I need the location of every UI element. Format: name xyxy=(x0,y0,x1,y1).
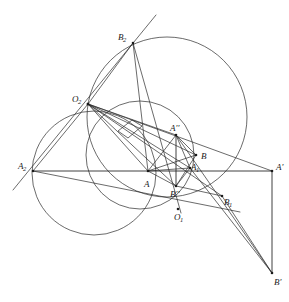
point-label-B: B xyxy=(201,152,207,161)
segment-O2-B xyxy=(88,104,196,155)
figure-canvas xyxy=(0,0,289,302)
segment-line-A2-B2 xyxy=(13,15,156,190)
point-label-O1: O1 xyxy=(174,213,184,222)
point-label-Bpp: B'' xyxy=(170,190,179,199)
point-label-Ap: A' xyxy=(276,163,283,172)
segment-O2-B2 xyxy=(88,43,133,104)
geometry-figure: A2O2B2AA''BA1B''O1B1A'B' xyxy=(0,0,289,302)
segment-O2-A xyxy=(88,104,148,171)
point-label-A: A xyxy=(144,180,150,189)
point-dot-Ap xyxy=(271,170,274,173)
point-dot-A xyxy=(147,170,150,173)
point-label-B2: B2 xyxy=(118,33,127,42)
point-dot-Bpp xyxy=(175,185,178,188)
point-dot-B xyxy=(195,154,198,157)
point-dot-O1 xyxy=(177,208,180,211)
point-dot-App xyxy=(175,134,178,137)
point-label-Bp: B' xyxy=(274,278,281,287)
point-dot-A2 xyxy=(32,170,35,173)
point-dot-O2 xyxy=(87,103,90,106)
segment-A-App xyxy=(148,135,176,171)
point-label-A2: A2 xyxy=(18,162,27,171)
segment-A1-Bp xyxy=(190,168,272,273)
lines-group xyxy=(13,15,272,273)
segment-O2-A2 xyxy=(33,104,88,171)
segment-O2-Bpp xyxy=(88,104,176,186)
point-label-B1: B1 xyxy=(224,198,233,207)
segment-A2-B1 xyxy=(33,171,240,212)
point-dot-Bp xyxy=(271,272,274,275)
point-label-O2: O2 xyxy=(72,95,82,104)
point-dot-B2 xyxy=(132,42,135,45)
point-label-A1: A1 xyxy=(191,163,200,172)
point-label-App: A'' xyxy=(170,124,179,133)
point-dot-B1 xyxy=(221,195,224,198)
circle-big xyxy=(87,37,247,197)
segment-B2-A xyxy=(133,43,148,171)
